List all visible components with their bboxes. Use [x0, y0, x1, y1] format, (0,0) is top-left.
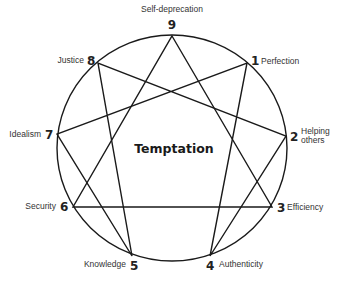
point-5-label: Knowledge — [84, 259, 126, 269]
point-4-number: 4 — [206, 259, 214, 273]
point-1-number: 1 — [251, 54, 259, 68]
center-title: Temptation — [134, 141, 213, 156]
point-2-number: 2 — [290, 130, 298, 144]
enneagram-diagram: Self-deprecation 9 1 Perfection 2 Helpin… — [0, 0, 340, 283]
point-2-label-line2: others — [301, 135, 325, 145]
point-3-number: 3 — [277, 201, 285, 215]
point-5-number: 5 — [130, 259, 138, 273]
point-9-number: 9 — [168, 18, 176, 32]
inner-triangle — [73, 36, 272, 207]
point-6-label: Security — [25, 201, 56, 211]
point-4-label: Authenticity — [219, 259, 264, 269]
point-9-label: Self-deprecation — [141, 4, 203, 14]
point-1-label: Perfection — [261, 56, 300, 66]
point-6-number: 6 — [60, 200, 68, 214]
point-7-label: Idealism — [9, 129, 41, 139]
point-3-label: Efficiency — [287, 202, 324, 212]
point-7-number: 7 — [45, 128, 53, 142]
point-8-label: Justice — [58, 55, 85, 65]
point-8-number: 8 — [87, 54, 95, 68]
hexad-figure — [57, 63, 286, 256]
